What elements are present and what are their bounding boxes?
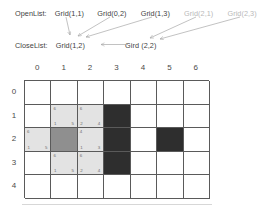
- grid-cell-6-3[interactable]: [184, 152, 210, 176]
- openlist-label: OpenList:: [15, 9, 47, 18]
- cell-2-2-g-cost: 1: [80, 145, 82, 150]
- grid-cell-3-2[interactable]: [104, 128, 130, 152]
- grid-cell-3-1[interactable]: [104, 105, 130, 129]
- cell-1-3-g-cost: 1: [54, 168, 56, 173]
- grid-cell-4-3[interactable]: [131, 152, 157, 176]
- list-panel: OpenList: Grid(1,1) Grid(0,2) Grid(1,3) …: [0, 0, 271, 58]
- col-header-1: 1: [50, 63, 76, 72]
- grid-cell-6-0[interactable]: [184, 81, 210, 105]
- closelist-row: CloseList: Grid(1,2) Gird (2,2): [15, 41, 156, 50]
- cell-1-3-h-cost: 5: [71, 168, 73, 173]
- openlist-item-0[interactable]: Grid(1,1): [55, 9, 84, 18]
- row-header-0: 0: [6, 80, 22, 104]
- arrow-open0-to-close: [66, 17, 70, 35]
- grid-cell-4-1[interactable]: [131, 105, 157, 129]
- openlist-item-2[interactable]: Grid(1,3): [141, 9, 170, 18]
- cell-2-3-g-cost: 2: [80, 168, 82, 173]
- closelist-label: CloseList:: [15, 41, 48, 50]
- cell-2-2-f-cost: 4: [80, 129, 82, 134]
- grid-cell-2-2[interactable]: 413: [78, 128, 104, 152]
- grid-cell-6-1[interactable]: [184, 105, 210, 129]
- cell-0-2-h-cost: 5: [45, 145, 47, 150]
- grid-cell-0-0[interactable]: [25, 81, 51, 105]
- cell-0-2-g-cost: 1: [28, 145, 30, 150]
- grid-cell-0-3[interactable]: [25, 152, 51, 176]
- cell-2-2-h-cost: 3: [98, 145, 100, 150]
- grid-cell-2-1[interactable]: 624: [78, 105, 104, 129]
- grid-cell-0-2[interactable]: 615: [25, 128, 51, 152]
- grid-cell-2-4[interactable]: [78, 175, 104, 199]
- grid-cell-1-3[interactable]: 615: [51, 152, 77, 176]
- col-header-5: 5: [156, 63, 182, 72]
- grid-cell-6-2[interactable]: [184, 128, 210, 152]
- cell-2-1-f-cost: 6: [80, 106, 82, 111]
- closelist-item-0[interactable]: Grid(1,2): [56, 41, 85, 50]
- arrow-open2-to-close: [86, 17, 152, 37]
- grid-baseline-rule: [22, 204, 212, 205]
- arrow-open4-to-close: [160, 17, 240, 39]
- arrow-open3-to-close: [150, 17, 196, 38]
- cell-2-1-h-cost: 4: [98, 121, 100, 126]
- col-header-6: 6: [183, 63, 209, 72]
- grid-cell-4-0[interactable]: [131, 81, 157, 105]
- grid-cell-1-0[interactable]: [51, 81, 77, 105]
- row-header-4: 4: [6, 174, 22, 198]
- cell-1-1-h-cost: 5: [71, 121, 73, 126]
- cell-0-2-f-cost: 6: [27, 129, 29, 134]
- grid-cell-4-4[interactable]: [131, 175, 157, 199]
- arrow-open1-to-close: [78, 17, 110, 36]
- closelist-item-1[interactable]: Gird (2,2): [125, 41, 156, 50]
- cell-2-3-f-cost: 6: [80, 153, 82, 158]
- col-header-3: 3: [103, 63, 129, 72]
- cell-1-1-g-cost: 1: [54, 121, 56, 126]
- grid-cell-5-1[interactable]: [157, 105, 183, 129]
- grid-cell-2-3[interactable]: 624: [78, 152, 104, 176]
- grid-cell-3-0[interactable]: [104, 81, 130, 105]
- row-header-1: 1: [6, 104, 22, 128]
- grid-cell-2-0[interactable]: [78, 81, 104, 105]
- openlist-item-4[interactable]: Grid(2,3): [227, 9, 256, 18]
- grid-cell-5-0[interactable]: [157, 81, 183, 105]
- grid-cells-container[interactable]: 615624615413615624: [24, 80, 209, 198]
- cell-1-3-f-cost: 6: [53, 153, 55, 158]
- grid-cell-5-4[interactable]: [157, 175, 183, 199]
- cell-2-3-h-cost: 4: [98, 168, 100, 173]
- row-header-2: 2: [6, 127, 22, 151]
- col-header-0: 0: [24, 63, 50, 72]
- cell-2-1-g-cost: 2: [80, 121, 82, 126]
- grid-cell-1-2[interactable]: [51, 128, 77, 152]
- grid-cell-0-4[interactable]: [25, 175, 51, 199]
- grid-cell-1-4[interactable]: [51, 175, 77, 199]
- col-header-4: 4: [130, 63, 156, 72]
- grid-column-headers: 0 1 2 3 4 5 6: [24, 63, 209, 77]
- grid-cell-3-4[interactable]: [104, 175, 130, 199]
- openlist-item-1[interactable]: Grid(0,2): [97, 9, 126, 18]
- row-header-3: 3: [6, 151, 22, 175]
- grid-cell-4-2[interactable]: [131, 128, 157, 152]
- grid-cell-3-3[interactable]: [104, 152, 130, 176]
- grid-cell-0-1[interactable]: [25, 105, 51, 129]
- col-header-2: 2: [77, 63, 103, 72]
- grid-cell-1-1[interactable]: 615: [51, 105, 77, 129]
- grid-cell-5-2[interactable]: [157, 128, 183, 152]
- grid-cell-6-4[interactable]: [184, 175, 210, 199]
- grid-row-headers: 0 1 2 3 4: [6, 80, 22, 198]
- cell-1-1-f-cost: 6: [53, 106, 55, 111]
- grid-cell-5-3[interactable]: [157, 152, 183, 176]
- openlist-row: OpenList: Grid(1,1) Grid(0,2) Grid(1,3) …: [15, 9, 257, 18]
- grid-diagram: 0 1 2 3 4 5 6 0 1 2 3 4 6156246154136156…: [0, 58, 271, 214]
- openlist-item-3[interactable]: Grid(2,1): [184, 9, 213, 18]
